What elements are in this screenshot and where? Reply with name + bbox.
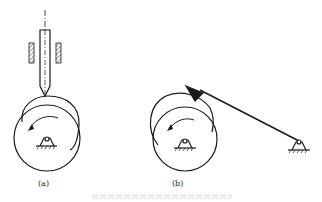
guide-bearing-right bbox=[56, 43, 61, 63]
ground-pivot-icon bbox=[288, 140, 310, 153]
subfigure-label-a: (a) bbox=[38, 179, 49, 188]
subfigure-b bbox=[150, 86, 310, 171]
cam-pivot-icon bbox=[36, 137, 57, 149]
subfigure-label-b: (b) bbox=[172, 179, 183, 188]
subfigure-a bbox=[14, 10, 80, 171]
oscillating-follower-arm bbox=[200, 90, 299, 141]
cam-mechanism-diagram bbox=[0, 0, 322, 202]
rotation-arrow-icon bbox=[170, 119, 194, 128]
rotation-arrow-icon bbox=[30, 116, 58, 128]
guide-bearing-left bbox=[29, 43, 34, 63]
cam-pivot-icon bbox=[174, 139, 196, 151]
figure-caption bbox=[92, 194, 232, 199]
